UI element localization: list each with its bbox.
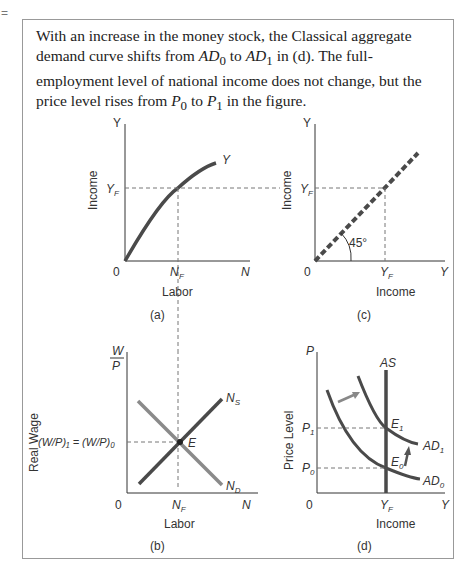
- panel-d: P AS E1 E0 AD1 AD0 P1 P0 0 YF Y Income P…: [282, 344, 450, 553]
- wage-level-label: (W/P)₁ = (W/P)₀: [38, 436, 115, 448]
- panel-b: W P NS ND E (W/P)₁ = (W/P)₀ 0 NF N Labor…: [27, 344, 258, 553]
- panel-c: Y Y F 45° 0 Y F Y Income Income (c): [280, 116, 449, 322]
- origin: 0: [115, 498, 122, 512]
- panel-label: (c): [357, 308, 371, 322]
- nf-label: N: [170, 265, 179, 279]
- y-axis-label: Income: [86, 170, 100, 210]
- wage-den: P: [112, 359, 120, 373]
- ad0-label: AD0: [422, 474, 445, 490]
- origin: 0: [113, 265, 120, 279]
- angle-label: 45°: [349, 236, 367, 250]
- y-axis-top: Y: [303, 116, 311, 130]
- y-axis-label: Real Wage: [27, 413, 41, 472]
- y-axis-label: Income: [280, 170, 294, 210]
- y-axis-label: Price Level: [282, 411, 296, 470]
- eq-point-label: E: [188, 436, 197, 450]
- as-label: AS: [379, 356, 396, 370]
- ns-label: NS: [226, 391, 241, 407]
- ad1-label: AD1: [422, 439, 444, 455]
- p1-label: P1: [302, 421, 314, 437]
- e1-label: E1: [391, 417, 403, 433]
- e0-label: E0: [391, 455, 404, 471]
- x-axis-label: Income: [376, 517, 416, 531]
- panel-label: (a): [150, 308, 165, 322]
- y-axis-top: P: [306, 344, 314, 358]
- x-axis-end: Y: [441, 498, 450, 512]
- x-axis-label: Income: [376, 285, 416, 299]
- curve-label: Y: [222, 153, 231, 167]
- panel-a: Y Y Y F 0 N F N Labor Income (a): [86, 116, 280, 490]
- x-axis-label: Labor: [162, 285, 193, 299]
- x-axis-label: Labor: [164, 517, 195, 531]
- x-axis-end: Y: [440, 265, 449, 279]
- panel-label: (d): [357, 539, 372, 553]
- nf-sub: F: [179, 272, 185, 281]
- nd-label: ND: [226, 479, 241, 495]
- diagram: Y Y Y F 0 N F N Labor Income (a) Y Y F 4…: [0, 0, 475, 586]
- x-axis-end: N: [241, 265, 250, 279]
- p0-label: P0: [302, 461, 315, 477]
- origin: 0: [304, 265, 311, 279]
- yf-label: YF: [380, 498, 394, 514]
- nf-label: NF: [172, 498, 187, 514]
- origin: 0: [306, 498, 313, 512]
- x-axis-end: N: [242, 498, 251, 512]
- yf-x-sub: F: [388, 272, 394, 281]
- yf-sub: F: [114, 189, 120, 198]
- yf-sub: F: [308, 189, 314, 198]
- panel-label: (b): [150, 539, 165, 553]
- wage-num: W: [112, 344, 125, 358]
- y-axis-top: Y: [113, 116, 121, 130]
